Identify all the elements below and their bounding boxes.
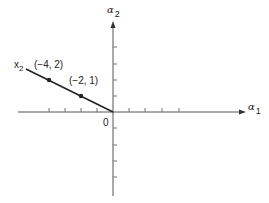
- point-neg4-2: (−4, 2): [34, 59, 63, 82]
- point-label-neg2-1: (−2, 1): [69, 75, 98, 86]
- point-neg2-1: (−2, 1): [69, 75, 98, 98]
- alpha1-ticks: [49, 108, 179, 112]
- alpha2-axis-label: α2: [107, 4, 120, 19]
- alpha2-axis: [111, 21, 118, 196]
- origin-label: 0: [103, 117, 109, 128]
- x2-line-label: x2: [14, 59, 24, 73]
- alpha1-axis: [18, 108, 246, 115]
- axis-arrow-up-icon: [111, 21, 116, 28]
- axis-arrow-right-icon: [239, 110, 246, 115]
- alpha1-axis-label: α1: [248, 101, 261, 116]
- point-label-neg4-2: (−4, 2): [34, 59, 63, 70]
- coordinate-diagram: α1 α2 0 x2 (−4, 2) (−2, 1): [0, 0, 269, 203]
